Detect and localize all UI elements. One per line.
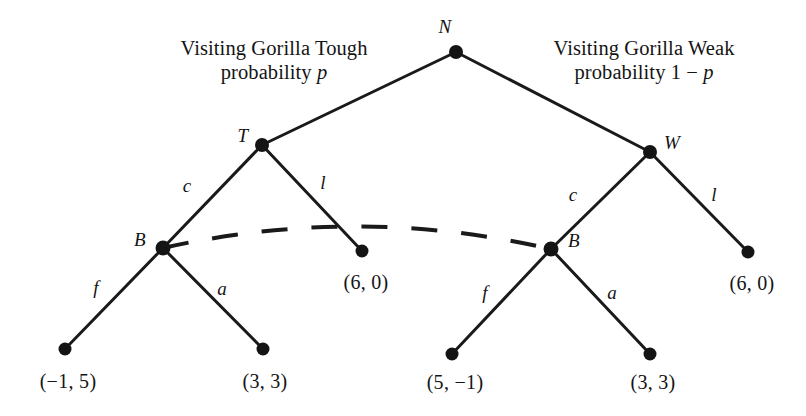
tree-node-t6[interactable] <box>742 246 755 259</box>
branch-label-T-t3: l <box>320 172 325 194</box>
branch-label-W-BR: c <box>569 184 577 206</box>
tree-edge-BR-t5 <box>551 249 650 354</box>
node-label-N: N <box>439 16 452 38</box>
chance-annotation-tough-line2: probability p <box>180 60 367 84</box>
chance-annotation-weak-line2: probability 1 − p <box>553 60 734 84</box>
tree-node-t5[interactable] <box>644 348 657 361</box>
tree-node-t3[interactable] <box>356 245 369 258</box>
node-layer <box>59 45 755 361</box>
chance-annotation-weak-line1: Visiting Gorilla Weak <box>553 36 734 60</box>
tree-node-T[interactable] <box>255 138 269 152</box>
tree-edge-W-BR <box>551 152 650 249</box>
payoff-t2: (3, 3) <box>242 370 287 394</box>
edge-layer <box>65 52 748 354</box>
chance-annotation-weak: Visiting Gorilla Weakprobability 1 − p <box>553 36 734 84</box>
tree-node-W[interactable] <box>643 145 657 159</box>
tree-node-t1[interactable] <box>59 343 72 356</box>
probability-text: probability 1 − <box>574 61 703 83</box>
branch-label-BR-t5: a <box>607 282 617 304</box>
node-label-BR: B <box>568 230 580 252</box>
branch-label-BR-t4: f <box>482 282 487 304</box>
tree-edge-BL-t2 <box>163 248 263 349</box>
payoff-t4: (5, −1) <box>427 371 484 395</box>
branch-label-W-t6: l <box>711 184 716 206</box>
tree-node-BR[interactable] <box>544 242 559 257</box>
payoff-t3: (6, 0) <box>343 271 388 295</box>
game-tree-figure: NTWBBclclfafa(−1, 5)(3, 3)(6, 0)(5, −1)(… <box>0 0 806 416</box>
tree-node-N[interactable] <box>449 45 463 59</box>
payoff-t6: (6, 0) <box>729 272 774 296</box>
tree-node-t4[interactable] <box>446 348 459 361</box>
tree-node-t2[interactable] <box>257 343 270 356</box>
branch-label-BL-t2: a <box>217 278 227 300</box>
probability-symbol: p <box>703 61 713 83</box>
tree-edge-T-t3 <box>262 145 362 251</box>
payoff-t1: (−1, 5) <box>40 370 97 394</box>
branch-label-T-BL: c <box>183 175 191 197</box>
branch-label-BL-t1: f <box>93 277 98 299</box>
node-label-W: W <box>664 132 680 154</box>
node-label-BL: B <box>134 229 146 251</box>
chance-annotation-tough-line1: Visiting Gorilla Tough <box>180 36 367 60</box>
tree-edge-W-t6 <box>650 152 748 252</box>
tree-edge-BL-t1 <box>65 248 163 349</box>
tree-edge-BR-t4 <box>452 249 551 354</box>
tree-edge-T-BL <box>163 145 262 248</box>
node-label-T: T <box>238 125 249 147</box>
payoff-t5: (3, 3) <box>630 371 675 395</box>
tree-node-BL[interactable] <box>156 241 171 256</box>
probability-symbol: p <box>317 61 327 83</box>
chance-annotation-tough: Visiting Gorilla Toughprobability p <box>180 36 367 84</box>
probability-text: probability <box>221 61 317 83</box>
